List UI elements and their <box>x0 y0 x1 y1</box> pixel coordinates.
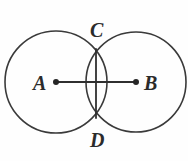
label-point-b: B <box>143 72 157 94</box>
geometry-figure-canvas: A B C D <box>0 0 188 161</box>
label-point-c: C <box>90 19 104 41</box>
point-b-dot <box>133 79 139 85</box>
geometry-diagram: A B C D <box>0 0 188 161</box>
label-point-a: A <box>31 72 46 94</box>
point-a-dot <box>53 79 59 85</box>
label-point-d: D <box>89 129 104 151</box>
